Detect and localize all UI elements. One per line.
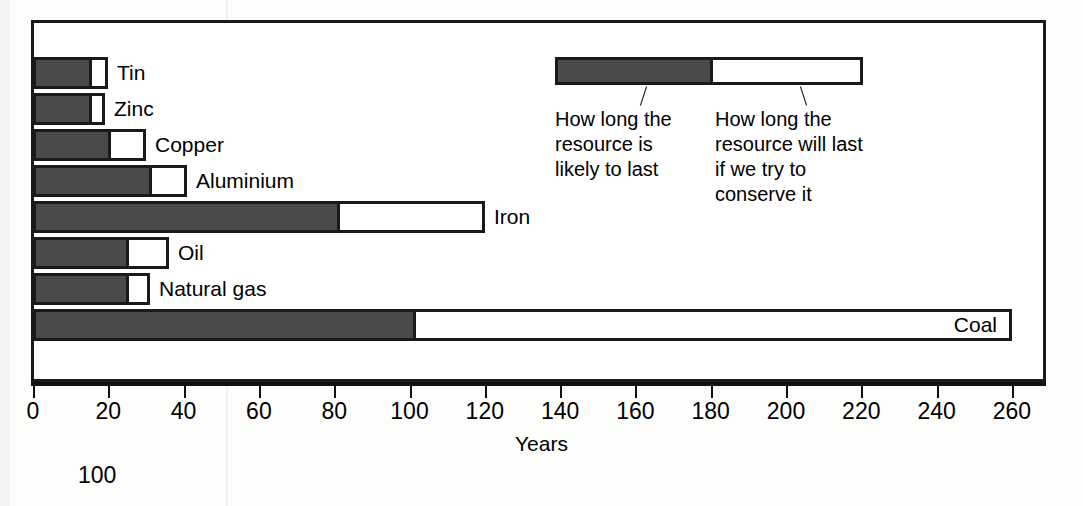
bar-segment-dark — [36, 204, 337, 230]
scan-artifact-left-edge — [0, 0, 10, 506]
x-axis-tick-label: 60 — [246, 398, 272, 424]
bar-segment-dark — [36, 168, 149, 194]
bar-label-oil: Oil — [178, 237, 204, 269]
bar-segment-dark — [36, 60, 89, 86]
bar-segment-light — [89, 96, 102, 122]
stray-number-annotation: 100 — [78, 462, 116, 489]
x-axis-tick — [184, 385, 186, 398]
x-axis-tick-label: 220 — [842, 398, 880, 424]
bar-segment-light — [89, 60, 105, 86]
x-axis-tick — [635, 385, 637, 398]
table-row[interactable]: Coal — [33, 309, 1012, 341]
table-row[interactable]: Natural gas — [33, 273, 266, 305]
bar-label-iron: Iron — [494, 201, 530, 233]
legend-segment-light — [710, 60, 860, 82]
chart-page: Tin Zinc Copper Aluminium — [0, 0, 1083, 506]
legend-sample-bar — [555, 57, 863, 85]
bar-label-zinc: Zinc — [114, 93, 154, 125]
bar-label-tin: Tin — [117, 57, 145, 89]
table-row[interactable]: Tin — [33, 57, 145, 89]
x-axis-tick-label: 180 — [692, 398, 730, 424]
bar-segment-light — [126, 276, 147, 302]
x-axis-tick — [711, 385, 713, 398]
bar-natural-gas[interactable] — [33, 273, 150, 305]
bar-zinc[interactable] — [33, 93, 105, 125]
x-axis-tick-label: 100 — [390, 398, 428, 424]
legend-label-dark: How long the resource is likely to last — [555, 107, 715, 207]
legend-pointers — [555, 85, 875, 107]
bar-segment-dark — [36, 96, 89, 122]
bar-label-aluminium: Aluminium — [196, 165, 294, 197]
x-axis-tick — [485, 385, 487, 398]
legend-segment-dark — [558, 60, 710, 82]
x-axis-tick-label: 260 — [993, 398, 1031, 424]
x-axis-tick — [786, 385, 788, 398]
bar-copper[interactable] — [33, 129, 146, 161]
x-axis-tick — [259, 385, 261, 398]
table-row[interactable]: Zinc — [33, 93, 154, 125]
table-row[interactable]: Copper — [33, 129, 224, 161]
leader-line-dark-icon — [640, 86, 647, 105]
bar-label-natural-gas: Natural gas — [159, 273, 266, 305]
x-axis-tick — [1012, 385, 1014, 398]
x-axis-tick-label: 120 — [466, 398, 504, 424]
x-axis-tick-label: 0 — [27, 398, 40, 424]
x-axis-tick — [33, 385, 35, 398]
x-axis-tick-label: 20 — [96, 398, 122, 424]
x-axis-tick-label: 240 — [917, 398, 955, 424]
bar-segment-light — [149, 168, 184, 194]
bar-segment-dark — [36, 312, 413, 338]
x-axis-tick — [937, 385, 939, 398]
x-axis-tick-labels: 020406080100120140160180200220240260 — [31, 398, 1046, 426]
legend: How long the resource is likely to last … — [555, 57, 875, 207]
bar-segment-dark — [36, 276, 126, 302]
bar-oil[interactable] — [33, 237, 169, 269]
bar-tin[interactable] — [33, 57, 108, 89]
bar-iron[interactable] — [33, 201, 485, 233]
bar-segment-dark — [36, 132, 108, 158]
bar-segment-light — [413, 312, 1009, 338]
table-row[interactable]: Oil — [33, 237, 204, 269]
x-axis-title: Years — [0, 432, 1083, 456]
bar-segment-light — [108, 132, 143, 158]
x-axis-tick-label: 200 — [767, 398, 805, 424]
x-axis — [31, 382, 1046, 392]
bar-label-coal: Coal — [954, 309, 997, 341]
x-axis-tick-label: 140 — [541, 398, 579, 424]
x-axis-tick-label: 160 — [616, 398, 654, 424]
x-axis-tick — [108, 385, 110, 398]
x-axis-tick — [410, 385, 412, 398]
bar-label-copper: Copper — [155, 129, 224, 161]
bar-aluminium[interactable] — [33, 165, 187, 197]
legend-label-light: How long the resource will last if we tr… — [715, 107, 895, 207]
x-axis-tick — [560, 385, 562, 398]
x-axis-tick — [861, 385, 863, 398]
x-axis-tick-label: 40 — [171, 398, 197, 424]
bar-coal[interactable]: Coal — [33, 309, 1012, 341]
bar-segment-dark — [36, 240, 126, 266]
bar-segment-light — [126, 240, 166, 266]
table-row[interactable]: Iron — [33, 201, 530, 233]
x-axis-tick — [334, 385, 336, 398]
leader-line-light-icon — [800, 86, 807, 105]
bar-segment-light — [337, 204, 482, 230]
x-axis-tick-label: 80 — [321, 398, 347, 424]
legend-texts: How long the resource is likely to last … — [555, 107, 895, 207]
table-row[interactable]: Aluminium — [33, 165, 294, 197]
